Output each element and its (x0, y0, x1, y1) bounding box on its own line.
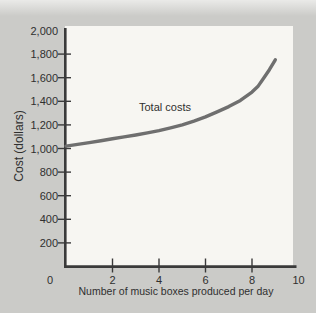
x-tick-label: 6 (192, 274, 220, 286)
x-tick-label: 0 (36, 274, 64, 286)
x-tick-label: 10 (285, 274, 313, 286)
y-tick-label: 1,000 (18, 143, 58, 155)
series-label-total-costs: Total costs (139, 101, 191, 114)
y-tick-label: 1,800 (18, 48, 58, 60)
y-tick-label: 200 (18, 237, 58, 249)
y-tick-label: 600 (18, 190, 58, 202)
x-tick-label: 4 (145, 274, 173, 286)
y-tick-label: 2,000 (18, 25, 58, 37)
x-axis-title: Number of music boxes produced per day (66, 285, 286, 298)
y-tick-label: 1,200 (18, 119, 58, 131)
y-tick-label: 400 (18, 213, 58, 225)
figure-canvas: Cost (dollars) Number of music boxes pro… (0, 0, 316, 313)
chart-svg (0, 0, 316, 313)
y-tick-label: 1,600 (18, 72, 58, 84)
y-tick-label: 800 (18, 166, 58, 178)
y-tick-label: 1,400 (18, 95, 58, 107)
x-tick-label: 8 (238, 274, 266, 286)
x-tick-label: 2 (99, 274, 127, 286)
